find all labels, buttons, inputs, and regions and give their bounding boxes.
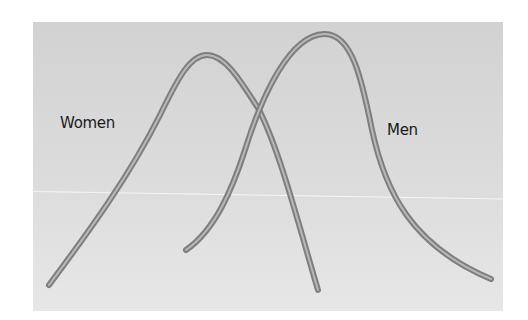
women-curve: [49, 55, 318, 290]
men-label: Men: [387, 121, 418, 139]
women-label: Women: [60, 114, 115, 132]
curves: [0, 0, 528, 320]
